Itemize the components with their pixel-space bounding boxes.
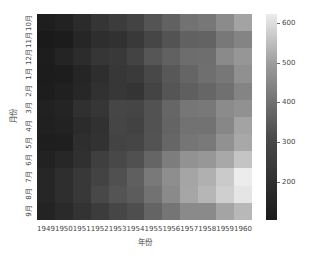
- y-tick-label: 9月: [23, 203, 33, 219]
- heatmap-cell: [180, 186, 198, 203]
- heatmap-cell: [37, 65, 55, 82]
- heatmap-cell: [127, 203, 145, 220]
- heatmap-cell: [37, 134, 55, 151]
- heatmap-cell: [37, 31, 55, 48]
- heatmap-cell: [234, 48, 252, 65]
- heatmap-cell: [91, 83, 109, 100]
- colorbar-tick: [277, 182, 280, 183]
- heatmap-cell: [109, 168, 127, 185]
- heatmap-cell: [162, 100, 180, 117]
- heatmap-cell: [37, 186, 55, 203]
- heatmap-cell: [127, 100, 145, 117]
- heatmap-cell: [127, 134, 145, 151]
- x-tick-label: 1956: [162, 225, 180, 233]
- heatmap-cell: [37, 14, 55, 31]
- heatmap-cell: [234, 31, 252, 48]
- heatmap-cell: [73, 186, 91, 203]
- y-tick-label: 4月: [23, 118, 33, 134]
- heatmap-cell: [162, 203, 180, 220]
- colorbar-tick: [277, 102, 280, 103]
- heatmap-cell: [127, 65, 145, 82]
- heatmap-cell: [198, 31, 216, 48]
- heatmap-cell: [216, 83, 234, 100]
- x-tick-label: 1951: [73, 225, 91, 233]
- heatmap-cell: [198, 168, 216, 185]
- heatmap-cell: [180, 151, 198, 168]
- heatmap-cell: [180, 48, 198, 65]
- heatmap-cell: [37, 203, 55, 220]
- heatmap-cell: [55, 100, 73, 117]
- heatmap-cell: [180, 203, 198, 220]
- heatmap-cell: [127, 117, 145, 134]
- heatmap-cell: [109, 83, 127, 100]
- x-tick-label: 1955: [144, 225, 162, 233]
- x-axis-label: 年份: [130, 236, 160, 247]
- colorbar-tick-label: 500: [282, 59, 295, 67]
- x-tick-label: 1952: [91, 225, 109, 233]
- heatmap-cell: [37, 100, 55, 117]
- colorbar-tick-label: 400: [282, 98, 295, 106]
- heatmap-cell: [91, 151, 109, 168]
- heatmap-cell: [198, 83, 216, 100]
- colorbar-tick: [277, 63, 280, 64]
- heatmap-cell: [198, 117, 216, 134]
- colorbar-tick-label: 200: [282, 178, 295, 186]
- heatmap-cell: [216, 117, 234, 134]
- heatmap-cell: [55, 14, 73, 31]
- heatmap-cell: [91, 186, 109, 203]
- heatmap-cell: [109, 186, 127, 203]
- x-tick-label: 1949: [37, 225, 55, 233]
- heatmap-cell: [37, 83, 55, 100]
- heatmap-cell: [109, 48, 127, 65]
- x-tick-label: 1957: [180, 225, 198, 233]
- heatmap-cell: [162, 134, 180, 151]
- y-tick-label: 11月: [23, 32, 33, 48]
- heatmap-cell: [55, 168, 73, 185]
- colorbar-tick: [277, 23, 280, 24]
- x-tick-label: 1954: [127, 225, 145, 233]
- y-tick-label: 7月: [23, 169, 33, 185]
- heatmap-cell: [91, 168, 109, 185]
- y-tick-label: 6月: [23, 152, 33, 168]
- heatmap-cell: [55, 117, 73, 134]
- heatmap-cell: [91, 117, 109, 134]
- x-tick-label: 1960: [234, 225, 252, 233]
- heatmap-cell: [127, 186, 145, 203]
- heatmap-cell: [109, 65, 127, 82]
- heatmap-cell: [216, 65, 234, 82]
- heatmap-cell: [144, 151, 162, 168]
- heatmap-cell: [109, 14, 127, 31]
- heatmap-cell: [216, 186, 234, 203]
- heatmap-cell: [73, 31, 91, 48]
- heatmap-cell: [37, 168, 55, 185]
- heatmap-cell: [180, 168, 198, 185]
- heatmap-cell: [234, 134, 252, 151]
- heatmap-cell: [55, 203, 73, 220]
- y-tick-label: 12月: [23, 49, 33, 65]
- heatmap-cell: [127, 151, 145, 168]
- heatmap-cell: [55, 65, 73, 82]
- x-tick-label: 1950: [55, 225, 73, 233]
- heatmap-cell: [144, 117, 162, 134]
- heatmap-cell: [73, 14, 91, 31]
- heatmap-cell: [37, 48, 55, 65]
- heatmap-cell: [144, 48, 162, 65]
- heatmap-cell: [127, 83, 145, 100]
- heatmap-cell: [162, 151, 180, 168]
- heatmap-cell: [216, 31, 234, 48]
- heatmap-cell: [216, 48, 234, 65]
- heatmap-cell: [234, 203, 252, 220]
- heatmap-cell: [180, 14, 198, 31]
- heatmap-cell: [162, 117, 180, 134]
- heatmap-cell: [73, 48, 91, 65]
- heatmap-cell: [73, 100, 91, 117]
- heatmap-cell: [91, 134, 109, 151]
- y-tick-label: 8月: [23, 186, 33, 202]
- heatmap-cell: [234, 151, 252, 168]
- heatmap-cell: [198, 14, 216, 31]
- heatmap-cell: [198, 100, 216, 117]
- heatmap-cell: [234, 65, 252, 82]
- heatmap-cell: [234, 117, 252, 134]
- heatmap-cell: [109, 151, 127, 168]
- colorbar-tick-label: 300: [282, 138, 295, 146]
